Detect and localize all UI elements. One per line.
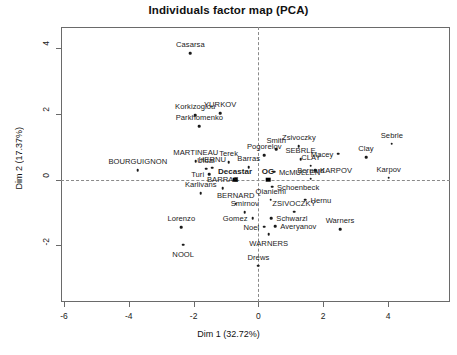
data-point [270,217,273,220]
y-axis-tick-label: 2 [41,107,51,112]
x-axis-label: Dim 1 (32.72%) [0,329,457,339]
data-point-label: Warners [326,216,355,225]
x-axis-tick [323,302,324,307]
data-point [182,243,185,246]
data-point-label: Uldal [197,156,215,165]
data-point-label: Clay [358,144,373,153]
x-axis-tick-label: -2 [190,311,198,321]
data-point-label: NOOL [172,250,194,259]
data-point [199,192,202,195]
y-axis-tick-label: 0 [41,173,51,178]
data-point-label: CLAY [301,153,320,162]
data-point-label: ZSIVOCZKY [272,199,316,208]
data-point-label: Noel [243,222,259,231]
y-axis-tick-label: -2 [41,238,51,246]
data-point [365,156,368,159]
data-point-label: WARNERS [249,239,288,248]
data-point-label: Smirnov [231,199,259,208]
data-point-label: Parkhomenko [176,113,223,122]
data-point-label: Turi [191,170,204,179]
data-point [251,217,254,220]
data-point-label: Barras [237,154,260,163]
data-point-label: Karpov [376,165,400,174]
data-point-label: Qianiemi [256,187,286,196]
data-point [391,142,394,145]
data-point-label: BOURGUIGNON [108,157,167,166]
y-axis-tick [56,48,61,49]
x-axis-tick [388,302,389,307]
data-point [293,210,296,213]
horizontal-reference-line [61,180,450,181]
y-axis-tick-label: 4 [41,41,51,46]
data-point-label: Drews [248,253,270,262]
data-point-label: YURKOV [204,100,236,109]
x-axis-tick-label: 2 [321,311,326,321]
data-point [274,225,277,228]
data-point-label: Pogorelov [247,142,282,151]
data-point [266,177,271,182]
data-point [198,125,201,128]
data-point [263,225,266,228]
x-axis-tick-label: 4 [386,311,391,321]
page-title: Individuals factor map (PCA) [0,4,457,16]
data-point [189,52,192,55]
data-point [339,228,342,231]
x-axis-tick [64,302,65,307]
data-point-label: Averyanov [280,222,316,231]
x-axis-tick [258,302,259,307]
data-point [257,264,260,267]
x-axis-tick [129,302,130,307]
data-point [310,178,313,181]
data-point-label: Bernard [297,166,324,175]
y-axis-tick [56,114,61,115]
y-axis-label: Dim 2 (17.37%) [14,127,24,190]
data-point-label: Karlivans [185,180,217,189]
data-point-label: Lorenzo [167,214,195,223]
x-axis-tick [194,302,195,307]
data-point [205,167,208,170]
x-axis-tick-label: -4 [125,311,133,321]
data-point [137,169,140,172]
data-point-label: KARPOV [320,166,352,175]
data-point-label: Zsivoczky [282,133,316,142]
data-point [267,233,270,236]
data-point [227,161,230,164]
data-point [211,166,214,169]
pca-scatter-plot: Individuals factor map (PCA) -6-4-2024-2… [0,0,457,355]
y-axis-tick [56,245,61,246]
data-point [221,187,224,190]
data-point-label: OG [262,167,275,176]
x-axis-tick-label: -6 [60,311,68,321]
x-axis-tick-label: 0 [256,311,261,321]
data-point-label: Sebrle [381,131,403,140]
data-point-label: Casarsa [176,40,205,49]
data-point [180,226,183,229]
data-point [263,154,266,157]
data-point [387,177,390,180]
data-point [337,153,340,156]
y-axis-tick [56,180,61,181]
